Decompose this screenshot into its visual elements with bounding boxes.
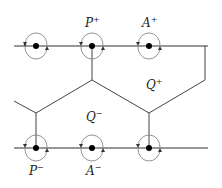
label-A-plus: A+ [141,15,157,30]
label-Q-minus: Q− [86,109,103,124]
graph-edges [14,46,205,148]
label-A-minus: A− [85,163,101,178]
label-P-minus: P− [28,163,44,178]
graph-diagram: P+ A+ Q+ Q− P− A− [0,0,222,188]
label-P-plus: P+ [84,15,100,30]
label-Q-plus: Q+ [146,77,163,92]
